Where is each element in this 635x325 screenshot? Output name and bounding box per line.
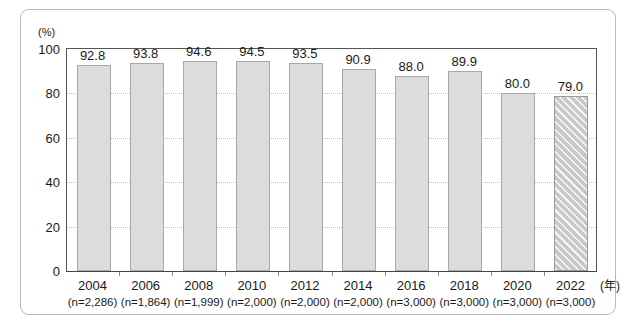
y-axis-tick-label: 100 xyxy=(20,43,60,56)
bar xyxy=(130,63,164,271)
x-axis-tick xyxy=(332,272,333,276)
y-axis-unit-label: (%) xyxy=(38,26,55,38)
bar xyxy=(183,61,217,271)
x-axis-unit-label: (年) xyxy=(600,279,620,293)
x-axis-tick xyxy=(544,272,545,276)
bar-value-label: 92.8 xyxy=(63,49,123,62)
bar-value-label: 90.9 xyxy=(328,53,388,66)
x-axis-tick xyxy=(225,272,226,276)
bar xyxy=(448,71,482,271)
bar xyxy=(342,69,376,271)
bar-value-label: 88.0 xyxy=(381,60,441,73)
y-axis-tick-label: 80 xyxy=(20,87,60,100)
bar xyxy=(395,76,429,271)
x-axis-tick xyxy=(438,272,439,276)
x-axis-tick xyxy=(278,272,279,276)
bar-value-label: 93.5 xyxy=(275,47,335,60)
bar-value-label: 80.0 xyxy=(487,77,547,90)
bar-value-label: 79.0 xyxy=(540,80,600,93)
x-axis-tick xyxy=(172,272,173,276)
bar-value-label: 94.5 xyxy=(222,45,282,58)
bar-value-label: 89.9 xyxy=(434,55,494,68)
bar xyxy=(554,96,588,271)
bar xyxy=(236,61,270,271)
bar xyxy=(289,63,323,271)
bar-value-label: 93.8 xyxy=(116,47,176,60)
y-axis-tick-label: 20 xyxy=(20,221,60,234)
x-axis-tick xyxy=(491,272,492,276)
x-axis-tick xyxy=(119,272,120,276)
chart-figure: (%) 020406080100 92.893.894.694.593.590.… xyxy=(0,0,635,325)
bar xyxy=(501,93,535,271)
y-axis-tick-label: 0 xyxy=(20,265,60,278)
bar-value-label: 94.6 xyxy=(169,45,229,58)
x-axis-year-label: 2022 xyxy=(534,278,606,293)
x-axis-tick xyxy=(385,272,386,276)
y-axis-tick-label: 60 xyxy=(20,132,60,145)
bar xyxy=(77,65,111,271)
y-axis-tick-label: 40 xyxy=(20,176,60,189)
x-axis-category: 2022(n=3,000) xyxy=(534,278,606,309)
x-axis-sample-size-label: (n=3,000) xyxy=(534,295,606,309)
